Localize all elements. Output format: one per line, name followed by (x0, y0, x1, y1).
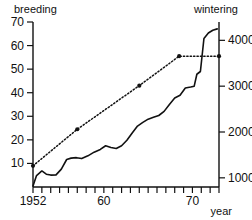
series-markers (31, 54, 221, 168)
left-tick-label: 30 (11, 109, 25, 123)
x-tick-label: 60 (97, 194, 111, 208)
left-tick-label: 70 (11, 15, 25, 29)
left-axis-ticks (27, 22, 33, 163)
left-axis-tick-labels: 10203040506070 (11, 15, 25, 170)
right-tick-label: 1000 (228, 171, 252, 185)
right-tick-label: 2000 (228, 125, 252, 139)
data-point-marker (137, 84, 141, 88)
data-point-marker (31, 164, 35, 168)
left-axis-title: breeding (14, 3, 57, 15)
chart-container: breeding wintering year 10203040506070 1… (0, 0, 252, 220)
left-tick-label: 50 (11, 62, 25, 76)
x-axis-ticks (33, 187, 219, 193)
right-tick-label: 4000 (228, 33, 252, 47)
series-line-breeding (33, 56, 219, 166)
x-axis-tick-labels: 19526070 (20, 194, 200, 208)
right-axis-tick-labels: 1000200030004000 (228, 33, 252, 185)
data-point-marker (217, 54, 221, 58)
left-tick-label: 60 (11, 39, 25, 53)
right-axis-ticks (219, 40, 225, 178)
series-group (33, 29, 219, 186)
left-tick-label: 10 (11, 156, 25, 170)
data-point-marker (177, 54, 181, 58)
x-tick-label: 1952 (20, 194, 47, 208)
right-axis-title: wintering (193, 3, 238, 15)
left-tick-label: 40 (11, 86, 25, 100)
data-point-marker (75, 127, 79, 131)
series-line-wintering (33, 29, 217, 186)
right-tick-label: 3000 (228, 79, 252, 93)
x-tick-label: 70 (186, 194, 200, 208)
chart-svg: breeding wintering year 10203040506070 1… (0, 0, 252, 220)
left-tick-label: 20 (11, 133, 25, 147)
x-axis-name: year (211, 205, 233, 217)
